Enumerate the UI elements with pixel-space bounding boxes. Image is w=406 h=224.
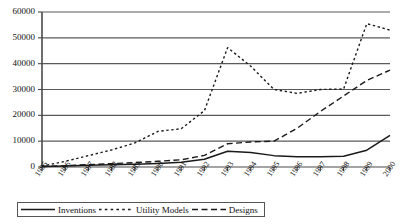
- y-axis-tick-label: 20000: [0, 109, 35, 119]
- legend-label-utility-models: Utility Models: [133, 205, 192, 215]
- legend-swatch-solid-icon: [21, 205, 55, 214]
- gridlines: [38, 12, 390, 167]
- series-line-designs: [42, 70, 390, 166]
- series-line-utility-models: [42, 24, 390, 167]
- chart-legend: Inventions Utility Models Designs: [17, 202, 265, 217]
- y-axis-tick-label: 10000: [0, 135, 35, 145]
- y-axis-tick-label: 0: [0, 161, 35, 171]
- line-chart: 0100002000030000400005000060000 19851986…: [0, 0, 406, 224]
- y-axis-tick-label: 40000: [0, 58, 35, 68]
- legend-item-utility-models: Utility Models: [99, 203, 192, 216]
- legend-item-inventions: Inventions: [21, 203, 99, 216]
- y-axis-tick-label: 50000: [0, 32, 35, 42]
- y-axis-tick-label: 30000: [0, 84, 35, 94]
- legend-label-inventions: Inventions: [55, 205, 99, 215]
- legend-item-designs: Designs: [192, 203, 261, 216]
- legend-swatch-dashed-icon: [192, 205, 226, 214]
- data-series: [42, 24, 390, 167]
- legend-label-designs: Designs: [226, 205, 261, 215]
- plot-area: [0, 0, 406, 224]
- series-line-inventions: [42, 135, 390, 166]
- y-axis-tick-label: 60000: [0, 6, 35, 16]
- legend-swatch-dotted-icon: [99, 205, 133, 214]
